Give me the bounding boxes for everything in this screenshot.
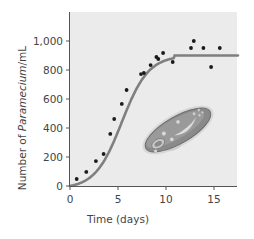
data-point bbox=[192, 39, 196, 43]
data-point bbox=[102, 152, 106, 156]
chart-canvas: 02004006008001,000 051015 bbox=[0, 0, 254, 239]
data-point bbox=[171, 60, 175, 64]
data-point bbox=[120, 102, 124, 106]
data-point bbox=[209, 65, 213, 69]
y-axis-label-suffix: /mL bbox=[16, 46, 28, 66]
y-tick-label: 200 bbox=[43, 151, 63, 163]
y-axis-label-species: Paramecium bbox=[16, 65, 28, 131]
data-point bbox=[112, 117, 116, 121]
y-axis-label-prefix: Number of bbox=[16, 131, 28, 190]
data-point bbox=[75, 177, 79, 181]
data-point bbox=[94, 159, 98, 163]
y-axis-ticks: 02004006008001,000 bbox=[33, 35, 70, 192]
x-tick-label: 5 bbox=[115, 193, 122, 205]
x-tick-label: 0 bbox=[67, 193, 74, 205]
x-axis-ticks: 051015 bbox=[67, 186, 221, 205]
data-point bbox=[161, 51, 165, 55]
x-tick-label: 10 bbox=[159, 193, 172, 205]
y-axis-label: Number of Paramecium/mL bbox=[16, 46, 28, 190]
data-point bbox=[218, 46, 222, 50]
y-tick-label: 600 bbox=[43, 93, 63, 105]
x-tick-label: 15 bbox=[207, 193, 220, 205]
data-point bbox=[108, 132, 112, 136]
y-tick-label: 400 bbox=[43, 122, 63, 134]
data-point bbox=[149, 63, 153, 67]
x-axis-label: Time (days) bbox=[87, 213, 149, 225]
data-point bbox=[202, 46, 206, 50]
y-tick-label: 0 bbox=[56, 180, 63, 192]
data-point bbox=[189, 46, 193, 50]
data-point bbox=[156, 57, 160, 61]
data-point bbox=[84, 170, 88, 174]
data-point bbox=[125, 88, 129, 92]
data-point bbox=[142, 71, 146, 75]
y-tick-label: 1,000 bbox=[33, 35, 63, 47]
y-tick-label: 800 bbox=[43, 64, 63, 76]
